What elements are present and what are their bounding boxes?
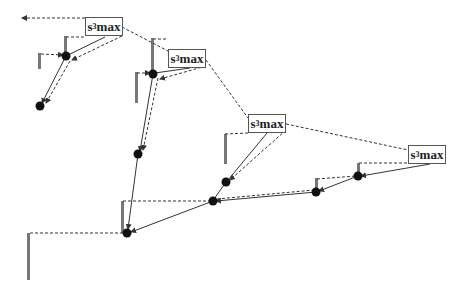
solid-links — [42, 37, 430, 232]
label-box-2: s3max — [168, 49, 206, 68]
label-box-3: s3max — [248, 114, 286, 133]
label-box-1: s3max — [85, 17, 123, 36]
label-suffix: max — [180, 51, 204, 67]
label-suffix: max — [97, 19, 121, 35]
label-box-4: s3max — [408, 145, 446, 164]
label-suffix: max — [420, 147, 444, 163]
diagram-canvas — [0, 0, 468, 294]
bars — [27, 36, 360, 280]
nodes — [36, 52, 363, 238]
label-suffix: max — [260, 116, 284, 132]
